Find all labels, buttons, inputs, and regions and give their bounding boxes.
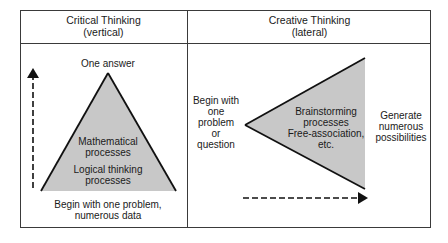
processes-line-1: processes [58,147,158,158]
start-line-4: or [188,128,244,139]
begin-one-problem-label: Begin with one problem, numerous data [38,199,178,221]
numerous-data-line: numerous data [38,210,178,221]
start-line-3: problem [188,117,244,128]
generate-possibilities-label: Generate numerous possibilities [370,110,432,143]
end-line-2: numerous [370,121,432,132]
brainstorming-label: Brainstorming processes Free-association… [282,106,370,150]
processes-line-2: processes [58,175,158,186]
mathematical-processes-label: Mathematical processes [58,136,158,158]
start-line-5: question [188,139,244,150]
end-line-1: Generate [370,110,432,121]
inner-line-3: Free-association, [282,128,370,139]
end-line-3: possibilities [370,132,432,143]
begin-line: Begin with one problem, [38,199,178,210]
start-line-2: one [188,106,244,117]
one-answer-label: One answer [78,58,138,69]
inner-line-4: etc. [282,139,370,150]
begin-with-problem-label: Begin with one problem or question [188,95,244,150]
up-arrowhead-icon [27,68,39,78]
start-line-1: Begin with [188,95,244,106]
inner-line-1: Brainstorming [282,106,370,117]
logical-thinking-line: Logical thinking [58,164,158,175]
logical-thinking-label: Logical thinking processes [58,164,158,186]
inner-line-2: processes [282,117,370,128]
right-arrowhead-icon [358,192,368,204]
mathematical-line: Mathematical [58,136,158,147]
